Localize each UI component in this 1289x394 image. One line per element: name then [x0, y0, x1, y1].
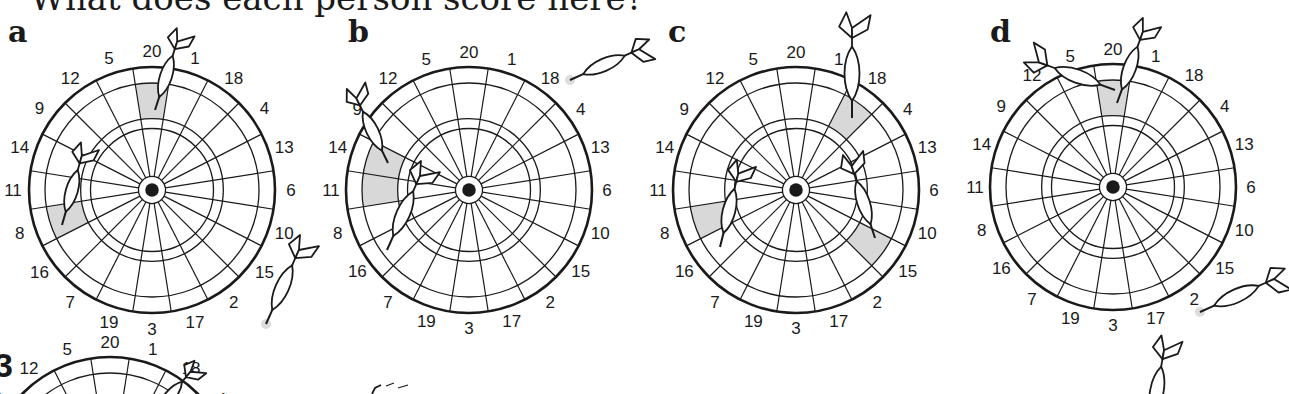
dart-icons-extra — [0, 0, 1289, 394]
